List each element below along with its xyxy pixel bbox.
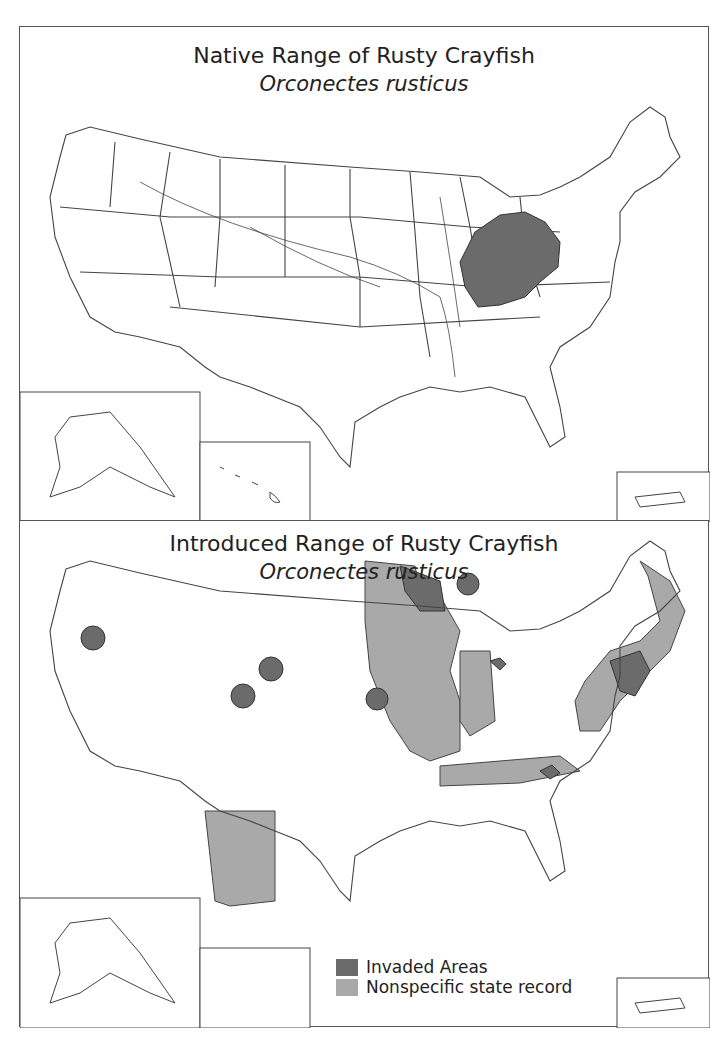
map-subtitle-native: Orconectes rusticus [20, 72, 708, 96]
map-title-native: Native Range of Rusty Crayfish [20, 43, 708, 68]
legend-item-invaded: Invaded Areas [336, 957, 572, 977]
us-map-introduced [20, 521, 710, 1028]
native-range-area [460, 212, 560, 307]
puerto-rico-inset [617, 978, 710, 1028]
native-range-map-panel: Native Range of Rusty Crayfish Orconecte… [19, 26, 709, 521]
map-title-introduced: Introduced Range of Rusty Crayfish [20, 531, 708, 556]
legend-item-nonspecific: Nonspecific state record [336, 977, 572, 997]
hawaii-inset [200, 442, 310, 522]
map-subtitle-introduced: Orconectes rusticus [20, 560, 708, 584]
us-map-native [20, 27, 710, 522]
legend-label-nonspecific: Nonspecific state record [366, 977, 572, 997]
introduced-range-map-panel: Introduced Range of Rusty Crayfish Orcon… [19, 520, 709, 1027]
legend-label-invaded: Invaded Areas [366, 957, 488, 977]
nonspecific-swatch-icon [336, 979, 358, 996]
puerto-rico-inset [617, 472, 710, 522]
nonspecific-areas [205, 561, 685, 906]
hawaii-inset [200, 948, 310, 1028]
map-legend: Invaded Areas Nonspecific state record [336, 957, 572, 997]
invaded-swatch-icon [336, 959, 358, 976]
